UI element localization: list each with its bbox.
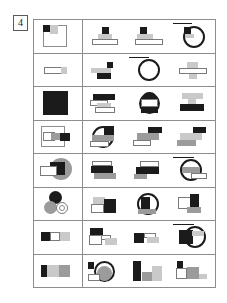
option-3-row-8[interactable] (171, 255, 215, 288)
option-1-row-7[interactable] (83, 221, 127, 254)
options-cell-row-3 (83, 87, 215, 120)
problem-cell-row-1[interactable] (34, 20, 83, 53)
table-row (34, 154, 215, 188)
black-square (177, 261, 183, 268)
gray-bar (177, 140, 196, 146)
option-1-row-6[interactable] (83, 188, 127, 221)
option-1-row-4[interactable] (83, 121, 127, 154)
white-rectangle (40, 166, 57, 176)
table-row (34, 121, 215, 155)
gray-bar (185, 34, 194, 38)
option-2-row-1[interactable] (127, 20, 171, 53)
white-bar (135, 39, 163, 45)
options-cell-row-8 (83, 255, 215, 288)
option-2-row-3[interactable] (127, 87, 171, 120)
light-gray-square (152, 266, 162, 281)
light-gray-bar (192, 231, 204, 236)
horizontal-line (173, 224, 194, 225)
gray-bar (137, 133, 159, 140)
black-square (43, 91, 68, 115)
options-cell-row-6 (83, 188, 215, 221)
options-cell-row-1 (83, 20, 215, 53)
light-gray-bar (47, 265, 59, 277)
horizontal-line (173, 157, 194, 158)
option-2-row-6[interactable] (127, 188, 171, 221)
option-2-row-7[interactable] (127, 221, 171, 254)
problem-cell-row-4[interactable] (34, 121, 83, 154)
gray-square (187, 267, 199, 279)
option-3-row-4[interactable] (171, 121, 215, 154)
white-circle-inner-outline (59, 205, 65, 211)
option-3-row-2[interactable] (171, 54, 215, 87)
white-bar (92, 39, 118, 45)
option-1-row-2[interactable] (83, 54, 127, 87)
option-3-row-7[interactable] (171, 221, 215, 254)
option-2-row-2[interactable] (127, 54, 171, 87)
item-number-box: 4 (13, 15, 28, 31)
black-base (141, 107, 158, 113)
black-square (104, 199, 116, 213)
black-square (41, 232, 50, 241)
black-cap (142, 92, 157, 99)
light-gray-bar (199, 274, 207, 279)
black-bar (136, 167, 159, 174)
problem-cell-row-6[interactable] (34, 188, 83, 221)
white-bar (88, 274, 100, 281)
gray-bar (138, 209, 156, 214)
option-3-row-6[interactable] (171, 188, 215, 221)
gray-bar (134, 174, 147, 179)
black-bar (91, 166, 113, 173)
option-2-row-5[interactable] (127, 154, 171, 187)
light-gray-bar (105, 238, 117, 245)
white-bar (95, 107, 115, 113)
problem-cell-row-5[interactable] (34, 154, 83, 187)
table-row (34, 20, 215, 54)
light-gray-bar (147, 237, 159, 243)
problem-cell-row-2[interactable] (34, 54, 83, 87)
black-square (134, 233, 144, 243)
option-1-row-3[interactable] (83, 87, 127, 120)
options-cell-row-4 (83, 121, 215, 154)
light-gray-bar (180, 133, 202, 140)
black-quadrant (141, 197, 150, 209)
black-square (104, 126, 114, 135)
horizontal-line (173, 23, 192, 24)
white-square (176, 268, 187, 279)
black-square (140, 27, 147, 34)
gray-square (142, 272, 152, 281)
table-row (34, 255, 215, 288)
white-band (141, 99, 158, 107)
option-3-row-5[interactable] (171, 154, 215, 187)
table-row (34, 221, 215, 255)
gray-bar (94, 173, 116, 179)
white-bar (90, 141, 109, 147)
puzzle-grid (33, 19, 216, 288)
option-3-row-1[interactable] (171, 20, 215, 53)
option-2-row-4[interactable] (127, 121, 171, 154)
white-square (50, 232, 60, 241)
light-gray-square (61, 67, 67, 74)
light-gray-square (50, 25, 58, 34)
option-1-row-8[interactable] (83, 255, 127, 288)
options-cell-row-7 (83, 221, 215, 254)
option-1-row-1[interactable] (83, 20, 127, 53)
black-square (88, 262, 94, 269)
black-square (184, 27, 191, 34)
option-2-row-8[interactable] (127, 255, 171, 288)
black-vertical-bar (133, 261, 141, 281)
gray-bar (187, 207, 201, 213)
black-square (43, 25, 50, 32)
black-square (102, 27, 109, 34)
black-bar (180, 104, 204, 111)
option-1-row-5[interactable] (83, 154, 127, 187)
option-3-row-3[interactable] (171, 87, 215, 120)
black-bar (90, 228, 103, 235)
black-square (179, 230, 193, 244)
problem-cell-row-3[interactable] (34, 87, 83, 120)
problem-cell-row-7[interactable] (34, 221, 83, 254)
problem-cell-row-8[interactable] (34, 255, 83, 288)
light-gray-square (60, 232, 70, 241)
gray-bar (59, 265, 70, 277)
circle-outline (138, 59, 160, 81)
white-bar (133, 140, 151, 146)
